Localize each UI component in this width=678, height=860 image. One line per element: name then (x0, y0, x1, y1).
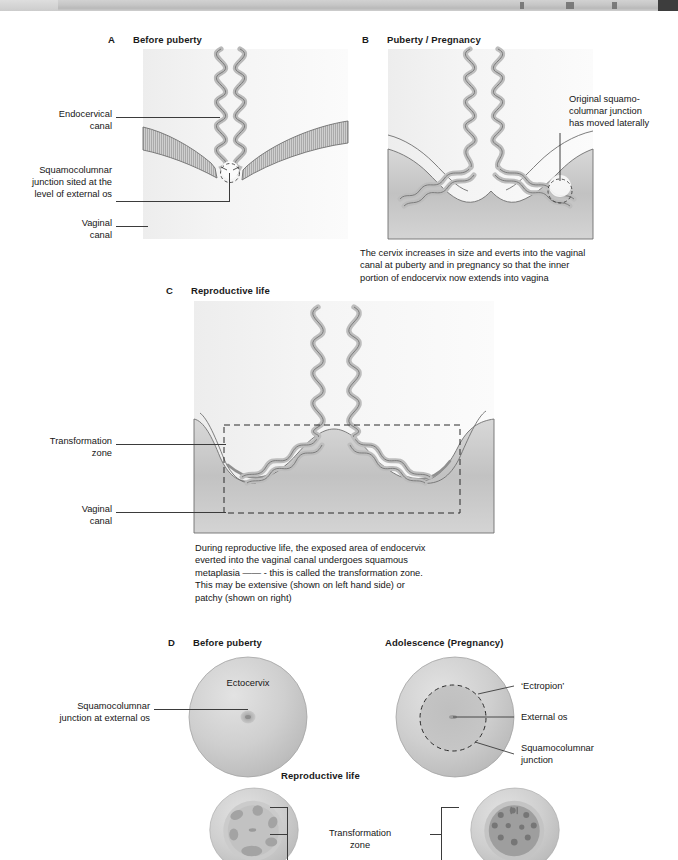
leader-scj-d (154, 709, 248, 710)
toolbar-icon-2[interactable] (566, 2, 574, 9)
panel-f-illustration-right (450, 788, 580, 860)
label-scj-a: Squamocolumnar junction sited at the lev… (4, 164, 112, 200)
label-vaginal-canal-c: Vaginal canal (38, 503, 112, 527)
panel-c-caption: During reproductive life, the exposed ar… (195, 542, 525, 604)
panel-e-illustration (390, 654, 520, 780)
app-toolbar-strip (0, 0, 678, 11)
leader-scj-a-horizontal (116, 201, 230, 202)
bracket-left-top-f (270, 807, 288, 808)
toolbar-dark-block (658, 0, 678, 11)
panel-d-title: Before puberty (193, 637, 262, 648)
leader-vaginal-canal-a (116, 226, 148, 227)
bracket-right-top-f (441, 807, 459, 808)
label-scj-d: Squamocolumnar junction at external os (2, 700, 150, 724)
bracket-left-mid-f (270, 834, 288, 835)
label-external-os-e: External os (521, 711, 671, 723)
panel-c-letter: C (166, 285, 173, 296)
panel-c-title: Reproductive life (191, 285, 270, 296)
panel-a-letter: A (108, 34, 115, 45)
panel-d-letter: D (168, 637, 175, 648)
panel-f-title: Reproductive life (281, 770, 360, 781)
toolbar-left-group (0, 0, 58, 11)
figure-canvas: A Before puberty Endocervical canal Squa… (0, 11, 678, 849)
panel-c-illustration (194, 301, 494, 533)
toolbar-icon-3[interactable] (612, 2, 617, 9)
panel-e-title: Adolescence (Pregnancy) (385, 637, 503, 648)
label-endocervical-canal-a: Endocervical canal (14, 108, 112, 132)
toolbar-icon-1[interactable] (520, 2, 524, 9)
panel-b-letter: B (362, 34, 369, 45)
label-scj-e: Squamocolumnar junction (521, 742, 671, 766)
leader-vaginal-canal-c (116, 512, 226, 513)
bracket-right-mid-f (430, 834, 442, 835)
panel-b-title: Puberty / Pregnancy (387, 34, 481, 45)
panel-d-illustration (183, 654, 313, 780)
leader-scj-a-vertical (229, 173, 230, 202)
label-transformation-zone-c: Transformation zone (32, 435, 112, 459)
panel-b-illustration (388, 49, 593, 239)
panel-a-illustration (143, 49, 348, 239)
label-ectocervix-d: Ectocervix (212, 677, 284, 689)
label-ectropion-e: ‘Ectropion’ (521, 680, 671, 692)
leader-transformation-zone-c (116, 444, 226, 445)
label-original-scj-b: Original squamo- columnar junction has m… (569, 93, 677, 129)
label-vaginal-canal-a: Vaginal canal (34, 217, 112, 241)
label-transformation-zone-f: Transformation zone (299, 827, 421, 851)
leader-endocervical-canal-a (116, 117, 220, 118)
panel-a-title: Before puberty (133, 34, 202, 45)
panel-b-caption: The cervix increases in size and everts … (360, 247, 672, 284)
